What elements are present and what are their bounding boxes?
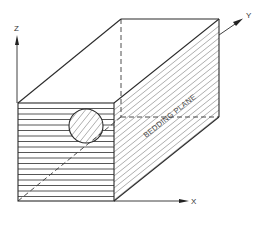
y-axis: Y: [219, 11, 252, 35]
x-axis-label: X: [191, 197, 197, 206]
block-diagram: Z X Y BEDDING PLANE: [0, 0, 257, 241]
z-axis-label: Z: [14, 24, 19, 33]
z-axis: Z: [14, 24, 19, 103]
y-axis-label: Y: [246, 11, 252, 20]
x-axis: X: [114, 197, 197, 206]
